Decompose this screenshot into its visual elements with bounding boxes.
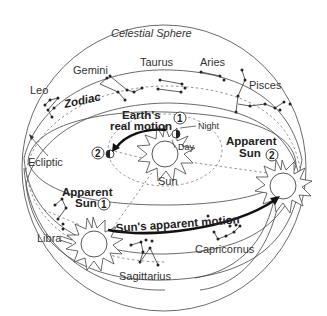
apparent-sun-1 xyxy=(60,217,123,271)
constellation-pisces xyxy=(235,69,292,114)
central-sun: Sun xyxy=(137,125,195,187)
taurus-label: Taurus xyxy=(140,56,174,68)
apparent-sun-1-number: 1 xyxy=(101,199,107,210)
sun-label: Sun xyxy=(158,175,178,187)
celestial-sphere-title: Celestial Sphere xyxy=(111,27,192,39)
constellation-aries xyxy=(200,71,226,82)
apparent-sun-2 xyxy=(255,160,312,213)
apparent-sun-1-line2: Sun xyxy=(75,197,97,209)
apparent-sun-2-line1: Apparent xyxy=(226,135,277,147)
apparent-sun-2-line2: Sun xyxy=(239,147,261,159)
earth-position-1-number: 1 xyxy=(177,113,183,124)
constellation-leo xyxy=(44,97,60,119)
libra-label: Libra xyxy=(37,232,62,244)
gemini-label: Gemini xyxy=(73,64,108,76)
apparent-sun-2-number: 2 xyxy=(269,150,275,161)
capricornus-label: Capricornus xyxy=(195,243,255,255)
leo-label: Leo xyxy=(30,84,48,96)
earths-real-motion-line2: real motion xyxy=(110,120,172,132)
day-label: Day xyxy=(178,142,195,152)
pisces-label: Pisces xyxy=(249,79,282,91)
aries-label: Aries xyxy=(200,56,226,68)
night-label: Night xyxy=(198,121,220,131)
celestial-sphere-diagram: Sun Night Day Ecliptic xyxy=(0,0,327,316)
zodiac-label: Zodiac xyxy=(62,90,102,110)
ecliptic-label: Ecliptic xyxy=(28,156,63,168)
earth-position-2-number: 2 xyxy=(95,148,101,159)
sagittarius-label: Sagittarius xyxy=(119,270,171,282)
